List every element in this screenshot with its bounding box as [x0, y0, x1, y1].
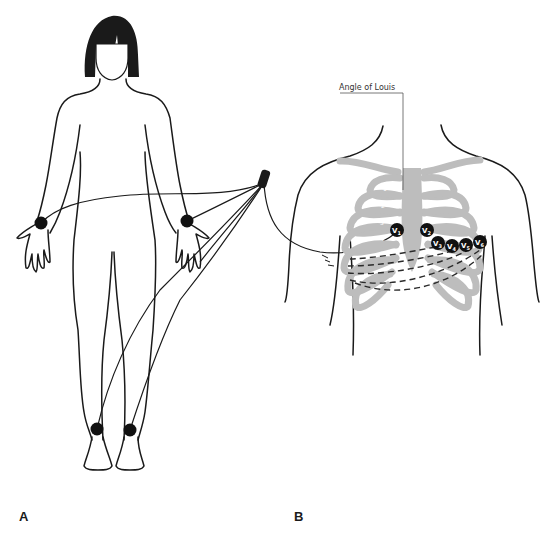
svg-text:1: 1 — [398, 230, 402, 236]
left-foot — [116, 437, 144, 470]
right-hand — [17, 224, 50, 272]
svg-text:4: 4 — [453, 246, 457, 252]
inner-leg-right — [102, 252, 112, 440]
svg-text:3: 3 — [439, 243, 443, 249]
left-hand — [176, 224, 209, 272]
face — [96, 44, 128, 80]
rib-number-3: 3 — [380, 219, 384, 226]
rib-number-1: 1 — [383, 185, 387, 192]
lead-connector — [257, 169, 271, 189]
wire-right-arm — [41, 183, 264, 223]
angle-of-louis-label: Angle of Louis — [339, 83, 395, 92]
right-flank — [330, 236, 340, 325]
wire-left-leg — [130, 183, 264, 430]
right-inner-arm — [50, 125, 80, 233]
electrode-left-ankle — [124, 424, 137, 437]
wire-extra — [200, 183, 264, 262]
electrode-right-wrist — [35, 217, 48, 230]
left-flank-inner — [480, 236, 485, 355]
left-clavicle — [424, 160, 480, 172]
rib-number-2: 2 — [381, 202, 385, 209]
electrode-v4: V 4 — [445, 239, 459, 253]
svg-text:5: 5 — [467, 245, 471, 251]
sternum — [402, 168, 423, 272]
electrode-v2: V 2 — [420, 223, 434, 237]
inner-leg-left — [114, 252, 125, 440]
left-flank — [492, 236, 502, 325]
panel-label-b: B — [294, 509, 303, 524]
electrode-left-wrist — [181, 215, 194, 228]
hatch-marks — [322, 255, 334, 266]
electrode-right-ankle — [91, 423, 104, 436]
electrode-v6: V 6 — [473, 235, 487, 249]
svg-text:2: 2 — [428, 230, 432, 236]
ecg-electrode-placement-diagram: 1 2 3 4 5 V 1 V 2 — [0, 0, 549, 533]
right-torso-leg-outer — [73, 152, 92, 440]
electrode-v1: V 1 — [390, 223, 404, 237]
body-outline-left-side — [126, 79, 189, 221]
left-inner-arm — [145, 125, 176, 233]
wire-left-arm — [187, 183, 264, 221]
panel-label-a: A — [19, 509, 28, 524]
svg-text:6: 6 — [481, 242, 485, 248]
electrode-v5: V 5 — [459, 238, 473, 252]
right-clavicle — [340, 161, 398, 172]
rib-number-4: 4 — [380, 235, 384, 242]
panel-b-chest: 1 2 3 4 5 V 1 V 2 — [285, 93, 539, 355]
right-foot — [84, 437, 112, 470]
electrode-v3: V 3 — [431, 236, 445, 250]
